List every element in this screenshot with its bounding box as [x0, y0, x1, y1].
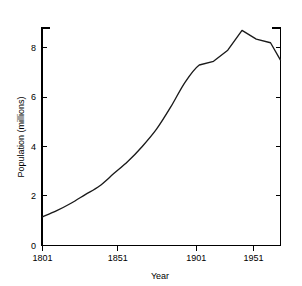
x-tick-label-1901: 1901	[186, 253, 206, 263]
y-tick-label-6: 6	[31, 92, 36, 102]
right-axis-ticks	[276, 48, 281, 196]
chart-canvas: 8 6 4 2 0 1801 1851 1901 1951 Year Popul…	[0, 0, 302, 286]
right-axis-spine	[272, 28, 281, 246]
x-tick-label-1851: 1851	[108, 253, 128, 263]
y-tick-label-2: 2	[31, 191, 36, 201]
x-tick-label-1951: 1951	[243, 253, 263, 263]
x-axis-ticks	[43, 246, 254, 251]
population-series-line	[43, 30, 281, 216]
x-axis-title: Year	[151, 271, 169, 281]
y-tick-label-0: 0	[31, 241, 36, 251]
population-line-chart: 8 6 4 2 0 1801 1851 1901 1951 Year Popul…	[0, 0, 302, 286]
y-axis-spine	[42, 28, 50, 246]
x-tick-label-1801: 1801	[32, 253, 52, 263]
y-tick-label-8: 8	[31, 43, 36, 53]
y-tick-label-4: 4	[31, 142, 36, 152]
y-axis-title: Population (millions)	[16, 96, 26, 177]
